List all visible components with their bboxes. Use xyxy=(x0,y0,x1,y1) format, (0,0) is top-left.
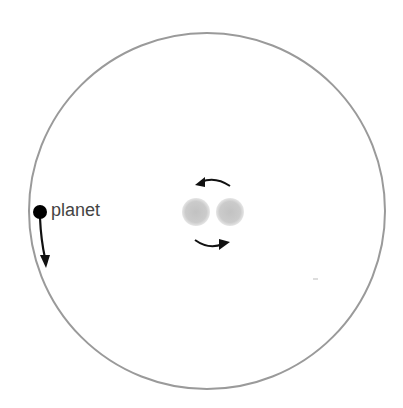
star-right xyxy=(216,198,244,226)
star-left xyxy=(182,198,210,226)
planet-label: planet xyxy=(51,200,100,221)
planet-dot xyxy=(33,205,47,219)
upper-rotation-arrow-icon xyxy=(195,177,230,187)
lower-rotation-arrow-icon xyxy=(195,239,230,250)
planet-motion-arrow-icon xyxy=(40,218,50,268)
